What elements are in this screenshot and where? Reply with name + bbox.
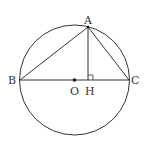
segment-ab	[20, 27, 88, 80]
label-b: B	[8, 74, 16, 87]
center-point-o	[73, 78, 77, 82]
geometry-diagram: A B C O H	[0, 0, 146, 144]
label-h: H	[85, 85, 95, 98]
label-c: C	[131, 74, 139, 87]
right-angle-marker	[88, 75, 93, 80]
label-o: O	[70, 85, 79, 98]
label-a: A	[83, 14, 93, 27]
